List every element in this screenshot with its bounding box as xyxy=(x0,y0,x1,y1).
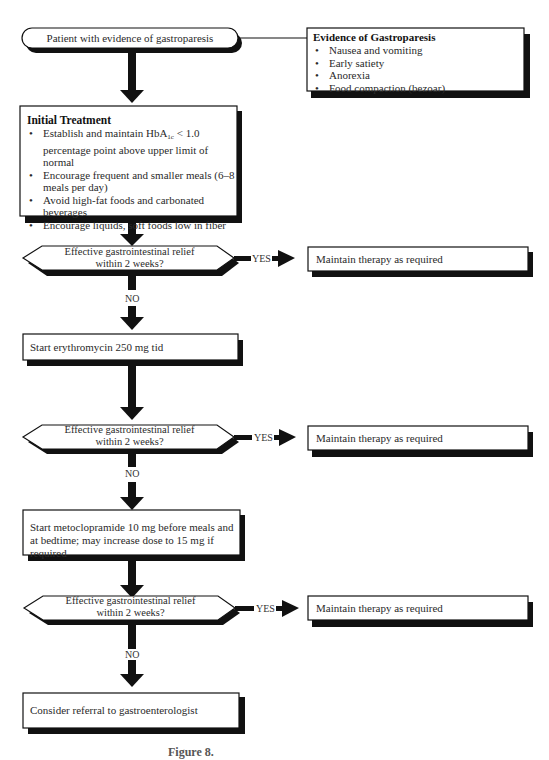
arrow-down-3 xyxy=(120,366,144,420)
step-2-label: Start metoclopramide 10 mg before meals … xyxy=(30,521,235,560)
decision-3-question: Effective gastrointestinal relief within… xyxy=(43,595,218,619)
evidence-list: Nausea and vomiting Early satiety Anorex… xyxy=(313,44,523,94)
decision-2-question: Effective gastrointestinal relief within… xyxy=(42,424,217,448)
start-label: Patient with evidence of gastroparesis xyxy=(22,32,238,45)
outcome-1-label: Maintain therapy as required xyxy=(316,253,443,266)
decision-3-yes-label: YES xyxy=(255,603,276,614)
decision-3-no-label: NO xyxy=(124,649,140,660)
figure-caption: Figure 8. xyxy=(168,745,214,760)
evidence-item: Nausea and vomiting xyxy=(313,44,523,57)
treatment-item: Encourage frequent and smaller meals (6–… xyxy=(27,169,237,194)
arrow-down-4 xyxy=(120,561,144,598)
evidence-item: Anorexia xyxy=(313,69,523,82)
step-1-label: Start erythromycin 250 mg tid xyxy=(30,341,235,354)
arrow-down-1 xyxy=(120,53,144,103)
decision-1-yes-label: YES xyxy=(251,253,272,264)
treatment-item: Encourage liquids, soft foods low in fib… xyxy=(27,219,237,232)
initial-treatment-list: Establish and maintain HbA1c < 1.0 perce… xyxy=(27,127,237,231)
decision-1-question: Effective gastrointestinal relief within… xyxy=(42,246,217,270)
no-arrow-2 xyxy=(120,454,144,510)
evidence-title: Evidence of Gastroparesis xyxy=(313,31,523,44)
initial-treatment-box: Initial Treatment Establish and maintain… xyxy=(27,114,237,231)
outcome-2-label: Maintain therapy as required xyxy=(316,432,443,445)
decision-2-no-label: NO xyxy=(124,468,140,479)
treatment-item-hba1c: Establish and maintain HbA1c < 1.0 perce… xyxy=(27,127,237,169)
outcome-3-label: Maintain therapy as required xyxy=(316,602,443,615)
evidence-item: Early satiety xyxy=(313,57,523,70)
initial-treatment-title: Initial Treatment xyxy=(27,114,237,127)
evidence-box: Evidence of Gastroparesis Nausea and vom… xyxy=(313,31,523,94)
decision-2-yes-label: YES xyxy=(253,432,274,443)
treatment-item: Avoid high-fat foods and carbonated beve… xyxy=(27,194,237,219)
step-3-label: Consider referral to gastroenterologist xyxy=(30,704,235,717)
evidence-item: Food compaction (bezoar) xyxy=(313,82,523,95)
decision-1-no-label: NO xyxy=(124,293,140,304)
